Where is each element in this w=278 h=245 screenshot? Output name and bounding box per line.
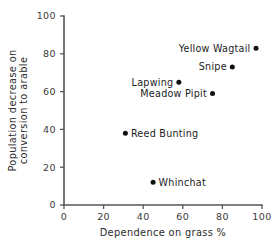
y-tick-label: 80 bbox=[43, 48, 56, 59]
axis-titles: Dependence on grass %Population decrease… bbox=[7, 49, 226, 238]
data-point-label: Whinchat bbox=[159, 177, 206, 188]
data-point-label: Meadow Pipit bbox=[140, 88, 207, 99]
y-axis-ticks: 020406080100 bbox=[37, 10, 64, 210]
x-tick-label: 80 bbox=[216, 211, 229, 222]
scatter-chart: 020406080100 020406080100 Yellow Wagtail… bbox=[0, 0, 278, 245]
data-point-marker bbox=[210, 91, 215, 96]
data-point-marker bbox=[176, 80, 181, 85]
x-tick-label: 40 bbox=[137, 211, 150, 222]
data-point-marker bbox=[254, 46, 259, 51]
y-tick-label: 0 bbox=[50, 199, 56, 210]
x-tick-label: 60 bbox=[176, 211, 189, 222]
y-axis-title-line1: Population decrease on bbox=[7, 49, 18, 171]
data-points: Yellow WagtailSnipeLapwingMeadow PipitRe… bbox=[123, 43, 259, 188]
data-point-label: Yellow Wagtail bbox=[178, 43, 251, 54]
y-tick-label: 20 bbox=[43, 162, 56, 173]
plot-area: 020406080100 020406080100 Yellow Wagtail… bbox=[0, 0, 278, 245]
x-tick-label: 20 bbox=[97, 211, 110, 222]
x-axis-title: Dependence on grass % bbox=[100, 227, 227, 238]
data-point-label: Snipe bbox=[199, 61, 227, 72]
data-point-marker bbox=[151, 180, 156, 185]
y-axis-title-line2: conversion to arable bbox=[18, 57, 29, 165]
data-point-label: Lapwing bbox=[132, 77, 174, 88]
x-tick-label: 100 bbox=[252, 211, 271, 222]
data-point-label: Reed Bunting bbox=[131, 128, 199, 139]
data-point-marker bbox=[230, 65, 235, 70]
y-tick-label: 60 bbox=[43, 86, 56, 97]
y-tick-label: 100 bbox=[37, 10, 56, 21]
x-tick-label: 0 bbox=[61, 211, 67, 222]
x-axis-ticks: 020406080100 bbox=[61, 205, 272, 222]
y-tick-label: 40 bbox=[43, 124, 56, 135]
data-point-marker bbox=[123, 131, 128, 136]
